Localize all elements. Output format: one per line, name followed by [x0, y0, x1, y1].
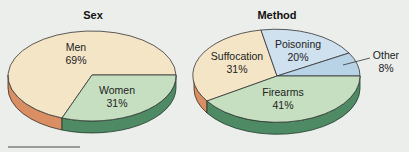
caption-rule — [8, 146, 80, 148]
method-title: Method — [257, 9, 296, 21]
other-percent: 8% — [378, 62, 393, 74]
firearms-label: Firearms — [262, 86, 303, 98]
pie-charts: Sex Men 69% Women 31% Method Poisoning 2… — [0, 0, 409, 152]
women-label: Women — [99, 84, 135, 96]
women-percent: 31% — [106, 97, 127, 109]
men-label: Men — [66, 41, 87, 53]
other-label: Other — [373, 49, 400, 61]
poisoning-percent: 20% — [287, 51, 308, 63]
sex-title: Sex — [83, 9, 103, 21]
method-pie: Method Poisoning 20% Other 8% Suffocatio… — [193, 9, 400, 134]
suffocation-label: Suffocation — [211, 50, 264, 62]
suffocation-percent: 31% — [226, 63, 247, 75]
poisoning-label: Poisoning — [275, 38, 321, 50]
sex-pie: Sex Men 69% Women 31% — [8, 9, 176, 133]
men-percent: 69% — [65, 54, 86, 66]
firearms-percent: 41% — [272, 99, 293, 111]
